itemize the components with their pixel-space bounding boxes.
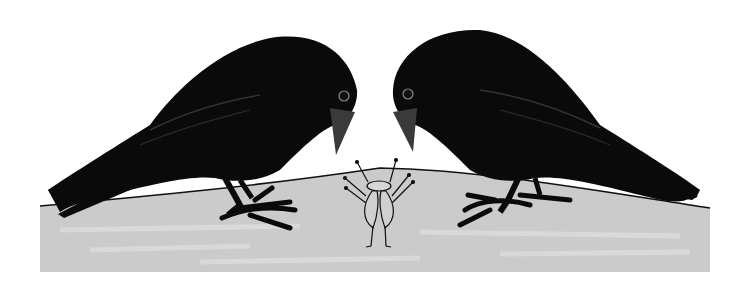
illustration [0, 0, 747, 288]
